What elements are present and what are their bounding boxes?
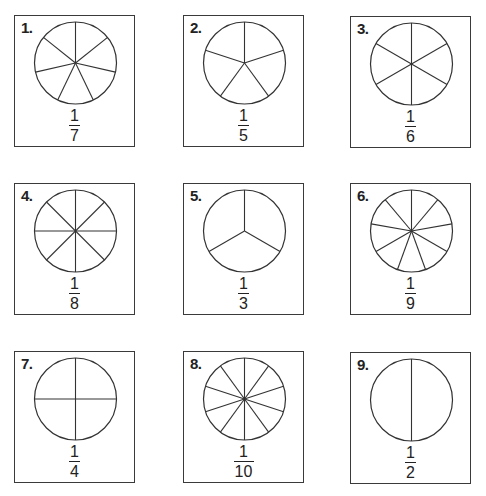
numerator: 1 bbox=[351, 445, 470, 461]
denominator: 3 bbox=[184, 296, 303, 312]
fraction-bar bbox=[405, 126, 416, 127]
numerator: 1 bbox=[351, 276, 470, 292]
fraction-bar bbox=[405, 462, 416, 463]
fraction-card-2: 2. 1 5 bbox=[183, 15, 304, 147]
denominator: 6 bbox=[351, 129, 470, 145]
denominator: 8 bbox=[15, 296, 134, 312]
fraction-label: 1 7 bbox=[15, 108, 134, 144]
fraction-bar bbox=[405, 293, 416, 294]
denominator: 5 bbox=[184, 128, 303, 144]
fraction-card-7: 7. 1 4 bbox=[14, 351, 135, 483]
fraction-card-4: 4. 1 8 bbox=[14, 183, 135, 315]
fraction-bar bbox=[69, 461, 80, 462]
numerator: 1 bbox=[15, 108, 134, 124]
fraction-label: 1 6 bbox=[351, 109, 470, 145]
denominator: 4 bbox=[15, 464, 134, 480]
fraction-label: 1 4 bbox=[15, 444, 134, 480]
fraction-label: 1 3 bbox=[184, 276, 303, 312]
fraction-card-9: 9. 1 2 bbox=[350, 352, 471, 484]
denominator: 10 bbox=[184, 464, 303, 480]
fraction-bar bbox=[69, 125, 80, 126]
fraction-card-3: 3. 1 6 bbox=[350, 16, 471, 148]
denominator: 2 bbox=[351, 465, 470, 481]
numerator: 1 bbox=[15, 276, 134, 292]
fraction-card-6: 6. 1 9 bbox=[350, 183, 471, 315]
denominator: 7 bbox=[15, 128, 134, 144]
fraction-label: 1 2 bbox=[351, 445, 470, 481]
fraction-label: 1 9 bbox=[351, 276, 470, 312]
fraction-card-5: 5. 1 3 bbox=[183, 183, 304, 315]
fraction-card-8: 8. 1 10 bbox=[183, 351, 304, 483]
fraction-label: 1 10 bbox=[184, 444, 303, 480]
fraction-bar bbox=[234, 461, 254, 462]
fraction-bar bbox=[238, 293, 249, 294]
numerator: 1 bbox=[351, 109, 470, 125]
fraction-bar bbox=[69, 293, 80, 294]
numerator: 1 bbox=[184, 444, 303, 460]
fraction-label: 1 5 bbox=[184, 108, 303, 144]
denominator: 9 bbox=[351, 296, 470, 312]
numerator: 1 bbox=[184, 276, 303, 292]
fraction-label: 1 8 bbox=[15, 276, 134, 312]
numerator: 1 bbox=[184, 108, 303, 124]
fraction-bar bbox=[238, 125, 249, 126]
numerator: 1 bbox=[15, 444, 134, 460]
fraction-card-1: 1. 1 7 bbox=[14, 15, 135, 147]
